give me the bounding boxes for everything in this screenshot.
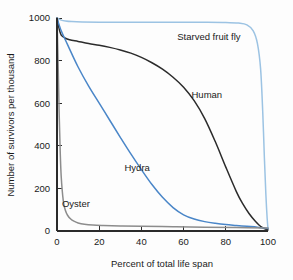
x-tick-label: 0 — [54, 236, 59, 247]
x-tick-label: 60 — [178, 236, 189, 247]
y-tick-label: 800 — [34, 55, 50, 66]
x-axis-title: Percent of total life span — [111, 258, 213, 269]
y-tick-label: 0 — [45, 225, 50, 236]
y-tick-label: 400 — [34, 140, 50, 151]
y-tick-label: 1000 — [29, 12, 50, 23]
curve-labels-group: Starved fruit flyHumanHydraOyster — [62, 31, 241, 209]
x-tick-label: 20 — [94, 236, 105, 247]
curve-label-oyster: Oyster — [62, 198, 90, 209]
y-tick-label: 600 — [34, 98, 50, 109]
y-tick-label: 200 — [34, 183, 50, 194]
curve-label-human: Human — [191, 89, 222, 100]
curve-label-hydra: Hydra — [125, 162, 151, 173]
survivorship-curve-figure: 02040608010002004006008001000 Starved fr… — [0, 0, 293, 280]
curve-label-starved-fruit-fly: Starved fruit fly — [177, 31, 241, 42]
x-tick-label: 40 — [136, 236, 147, 247]
y-axis-title: Number of survivors per thousand — [5, 53, 16, 196]
x-tick-label: 80 — [221, 236, 232, 247]
x-tick-label: 100 — [260, 236, 276, 247]
chart-canvas: 02040608010002004006008001000 Starved fr… — [0, 0, 293, 280]
